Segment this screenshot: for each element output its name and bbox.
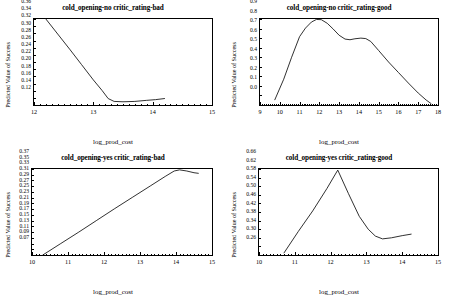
y-tick-label: 0.15	[19, 211, 29, 217]
x-tick-label: 17	[415, 108, 421, 115]
y-tick-label: 0.20	[21, 55, 31, 61]
x-tick-label: 14	[150, 108, 156, 115]
y-tick-label: 0.33	[19, 159, 29, 165]
y-tick-label: 0.21	[19, 194, 29, 200]
y-tick-label: 0.32	[21, 12, 31, 18]
y-tick-label: 0.24	[21, 41, 31, 47]
x-minor-tick-mark	[438, 254, 439, 256]
chart-panel-1: cold_opening-no critic_rating-good Predi…	[226, 0, 452, 150]
series-polyline	[275, 19, 431, 103]
x-minor-tick-mark	[438, 104, 439, 106]
y-tick-mark	[259, 255, 261, 256]
y-tick-label: 0.19	[19, 200, 29, 206]
x-axis-label: log_prod_cost	[0, 288, 226, 296]
x-tick-label: 15	[435, 258, 441, 265]
y-tick-mark	[32, 255, 34, 256]
y-tick-label: 0.28	[21, 27, 31, 33]
y-tick-label: 0.23	[19, 188, 29, 194]
x-tick-label: 11	[297, 108, 303, 115]
x-tick-label: 10	[277, 108, 283, 115]
y-axis-label: Predicted Value of Success	[228, 0, 240, 150]
x-tick-label: 9	[258, 108, 261, 115]
y-tick-label: 0.35	[19, 154, 29, 160]
y-tick-label: 0.37	[19, 148, 29, 154]
x-tick-label: 13	[336, 108, 342, 115]
x-axis-label: log_prod_cost	[0, 138, 226, 146]
y-tick-label: 0.29	[19, 171, 29, 177]
y-tick-label: 0.31	[19, 165, 29, 171]
x-tick-label: 12	[101, 258, 107, 265]
y-tick-label: 0.46	[246, 191, 256, 197]
y-tick-label: 0.18	[21, 63, 31, 69]
series-polyline	[43, 170, 199, 255]
x-minor-tick-mark	[212, 254, 213, 256]
y-tick-mark	[34, 105, 36, 106]
panel-title: cold_opening-yes critic_rating-good	[226, 154, 452, 162]
y-tick-label: 0.5	[250, 36, 257, 42]
series-line	[34, 19, 212, 105]
series-line	[259, 169, 438, 255]
y-tick-label: 0.7	[250, 17, 257, 23]
x-tick-label: 18	[435, 108, 441, 115]
y-tick-label: 0.38	[246, 208, 256, 214]
y-tick-label: 0.16	[21, 70, 31, 76]
plot-area	[258, 168, 439, 256]
plot-area	[33, 18, 213, 106]
x-tick-label: 10	[256, 258, 262, 265]
x-tick-label: 12	[316, 108, 322, 115]
y-tick-label: 0.11	[19, 223, 29, 229]
y-tick-label: 0.6	[250, 27, 257, 33]
x-tick-label: 12	[328, 258, 334, 265]
chart-panel-3: cold_opening-yes critic_rating-good Pred…	[226, 150, 452, 300]
x-tick-label: 10	[29, 258, 35, 265]
y-tick-label: 0.30	[246, 225, 256, 231]
y-axis-label-text: Predicted Value of Success	[231, 192, 237, 258]
y-tick-label: 0.2	[250, 65, 257, 71]
y-tick-label: 0.34	[246, 217, 256, 223]
series-line	[260, 19, 438, 105]
y-tick-label: 0.42	[246, 200, 256, 206]
y-tick-label: 0.50	[246, 182, 256, 188]
y-tick-label: 0.4	[250, 46, 257, 52]
y-tick-label: 0.26	[21, 34, 31, 40]
x-tick-label: 15	[209, 258, 215, 265]
x-tick-label: 11	[292, 258, 298, 265]
x-tick-label: 11	[65, 258, 71, 265]
y-axis-label: Predicted Value of Success	[2, 150, 14, 300]
y-tick-label: 0.22	[21, 48, 31, 54]
y-tick-label: 0.25	[19, 182, 29, 188]
x-tick-label: 13	[90, 108, 96, 115]
y-axis-label-text: Predicted Value of Success	[5, 192, 11, 258]
y-tick-label: 0.62	[246, 157, 256, 163]
y-tick-label: 0.0	[250, 84, 257, 90]
y-tick-label: 0.34	[21, 5, 31, 11]
x-tick-label: 14	[399, 258, 405, 265]
y-tick-label: 0.07	[19, 234, 29, 240]
y-tick-label: 0.36	[21, 0, 31, 4]
x-minor-tick-mark	[212, 104, 213, 106]
y-tick-label: 0.9	[250, 0, 257, 4]
x-tick-label: 13	[363, 258, 369, 265]
x-tick-label: 16	[395, 108, 401, 115]
x-tick-label: 12	[31, 108, 37, 115]
plot-area	[259, 18, 439, 106]
panel-title: cold_opening-no critic_rating-bad	[0, 4, 226, 12]
y-tick-label: 0.54	[246, 174, 256, 180]
panel-title: cold_opening-no critic_rating-good	[226, 4, 452, 12]
y-axis-label-text: Predicted Value of Success	[5, 42, 11, 108]
y-tick-label: 0.13	[19, 217, 29, 223]
y-tick-label: 0.17	[19, 205, 29, 211]
series-line	[32, 169, 212, 255]
x-axis-label: log_prod_cost	[226, 288, 452, 296]
y-tick-label: 0.66	[246, 148, 256, 154]
y-tick-label: 0.30	[21, 20, 31, 26]
y-tick-label: 0.14	[21, 77, 31, 83]
y-axis-label: Predicted Value of Success	[228, 150, 240, 300]
chart-panel-2: cold_opening-yes critic_rating-bad Predi…	[0, 150, 226, 300]
y-tick-mark	[260, 105, 262, 106]
x-axis-label: log_prod_cost	[226, 138, 452, 146]
x-tick-label: 14	[356, 108, 362, 115]
chart-panel-0: cold_opening-no critic_rating-bad Predic…	[0, 0, 226, 150]
series-polyline	[284, 170, 411, 253]
y-tick-label: 0.27	[19, 177, 29, 183]
